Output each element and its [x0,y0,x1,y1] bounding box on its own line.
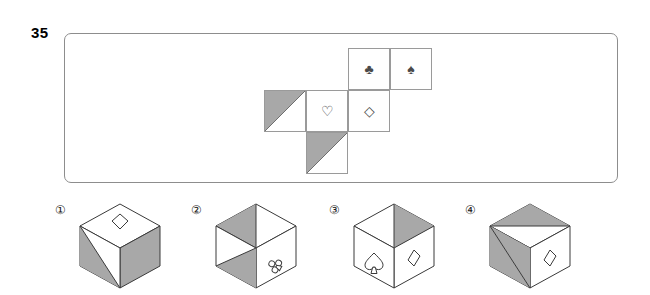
question-number: 35 [31,25,49,40]
option-3-label: ③ [329,204,340,216]
net-cell-shaded-left [264,90,306,132]
option-3[interactable]: ③ [326,196,476,292]
net-cell-shaded-bottom [306,132,348,174]
option-1-label: ① [55,204,66,216]
option-4-cube [484,200,588,288]
net-cell-diamond: ◇ [348,90,390,132]
club-icon: ♣ [349,49,389,89]
options-row: ① ② [0,196,650,292]
net-cell-spade: ♠ [390,48,432,90]
heart-icon: ♡ [307,91,347,131]
cube-net: ♣ ♠ ♡ ◇ [264,48,432,176]
shade-triangle-upper-left [265,91,305,131]
shade-triangle-upper-left [307,133,347,173]
net-cell-heart: ♡ [306,90,348,132]
option-2[interactable]: ② [188,196,338,292]
option-1[interactable]: ① [52,196,202,292]
net-cell-club: ♣ [348,48,390,90]
option-1-cube [74,200,178,288]
option-2-cube [210,200,314,288]
option-3-cube [348,200,452,288]
option-2-label: ② [191,204,202,216]
spade-icon: ♠ [391,49,431,89]
option-4[interactable]: ④ [462,196,612,292]
option-4-label: ④ [465,204,476,216]
diamond-icon: ◇ [349,91,389,131]
